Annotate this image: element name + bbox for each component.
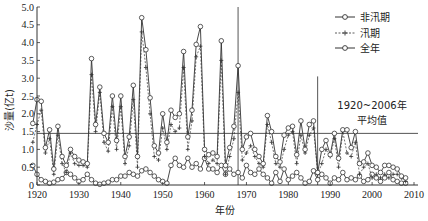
plus-marker-icon	[186, 147, 190, 151]
legend-item-flood: 汛期	[335, 28, 380, 39]
y-tick-label: 2.0	[22, 108, 35, 119]
y-tick-label: 1.5	[22, 126, 35, 137]
plus-marker-icon	[52, 172, 56, 176]
circle-marker-icon	[60, 176, 65, 181]
x-tick-label: 1990	[320, 189, 340, 200]
circle-marker-icon	[186, 135, 191, 140]
x-tick-label: 1930	[69, 189, 89, 200]
circle-marker-icon	[198, 167, 203, 172]
circle-marker-icon	[332, 131, 337, 136]
circle-marker-icon	[93, 122, 98, 127]
circle-marker-icon	[169, 108, 174, 113]
circle-marker-icon	[194, 161, 199, 166]
plus-marker-icon	[320, 162, 324, 166]
plus-marker-icon	[102, 140, 106, 144]
circle-marker-icon	[274, 154, 279, 159]
circle-marker-icon	[236, 170, 241, 175]
circle-marker-icon	[135, 174, 140, 179]
x-tick-label: 1970	[236, 189, 256, 200]
legend-label: 全年	[360, 42, 380, 54]
x-tick-label: 1920	[27, 189, 47, 200]
sediment-line-chart: 00.51.01.52.02.53.03.54.04.55.0 19201930…	[0, 0, 428, 221]
circle-marker-icon	[148, 170, 153, 175]
plus-marker-icon	[219, 58, 223, 62]
circle-marker-icon	[85, 172, 90, 177]
circle-marker-icon	[315, 170, 320, 175]
x-tick-labels: 1920193019401950196019701980199020002010	[27, 189, 424, 200]
plus-marker-icon	[295, 162, 299, 166]
circle-marker-icon	[177, 112, 182, 117]
y-tick-label: 1.0	[22, 144, 35, 155]
circle-marker-icon	[353, 129, 358, 134]
circle-marker-icon	[320, 147, 325, 152]
y-tick-label: 2.5	[22, 91, 35, 102]
circle-marker-icon	[265, 176, 270, 181]
circle-marker-icon	[211, 151, 216, 156]
circle-marker-icon	[311, 119, 316, 124]
x-tick-label: 2000	[362, 189, 382, 200]
circle-marker-icon	[324, 176, 329, 181]
circle-marker-icon	[219, 39, 224, 44]
plus-marker-icon	[324, 147, 328, 151]
circle-marker-icon	[60, 154, 65, 159]
circle-marker-icon	[85, 161, 90, 166]
y-tick-label: 4.0	[22, 37, 35, 48]
circle-marker-icon	[269, 129, 274, 134]
circle-marker-icon	[244, 163, 249, 168]
circle-marker-icon	[290, 174, 295, 179]
circle-marker-icon	[165, 140, 170, 145]
circle-marker-icon	[265, 113, 270, 118]
plus-marker-icon	[194, 55, 198, 59]
circle-marker-icon	[336, 156, 341, 161]
circle-marker-icon	[253, 172, 258, 177]
circle-marker-icon	[39, 99, 44, 104]
circle-marker-icon	[366, 151, 371, 156]
circle-marker-icon	[31, 121, 36, 126]
circle-marker-icon	[72, 176, 77, 181]
plus-marker-icon	[198, 44, 202, 48]
circle-marker-icon	[343, 46, 348, 51]
circle-marker-icon	[324, 138, 329, 143]
circle-marker-icon	[68, 172, 73, 177]
circle-marker-icon	[106, 140, 111, 145]
circle-marker-icon	[315, 177, 320, 182]
circle-marker-icon	[282, 167, 287, 172]
circle-marker-icon	[307, 179, 312, 184]
plus-marker-icon	[136, 165, 140, 169]
circle-marker-icon	[353, 177, 358, 182]
circle-marker-icon	[240, 147, 245, 152]
plus-marker-icon	[123, 162, 127, 166]
plus-marker-icon	[362, 165, 366, 169]
plus-marker-icon	[165, 147, 169, 151]
plus-marker-icon	[253, 155, 257, 159]
circle-marker-icon	[303, 147, 308, 152]
circle-marker-icon	[294, 170, 299, 175]
circle-marker-icon	[202, 147, 207, 152]
y-axis-title: 沙量(亿t)	[3, 89, 15, 131]
circle-marker-icon	[343, 15, 348, 20]
plus-marker-icon	[249, 144, 253, 148]
annotation-line-2: 平均值	[357, 114, 387, 126]
circle-marker-icon	[290, 124, 295, 129]
y-tick-label: 4.5	[22, 19, 35, 30]
x-tick-label: 1940	[111, 189, 131, 200]
circle-marker-icon	[181, 165, 186, 170]
circle-marker-icon	[299, 119, 304, 124]
circle-marker-icon	[198, 24, 203, 29]
circle-marker-icon	[403, 176, 408, 181]
circle-marker-icon	[81, 177, 86, 182]
plus-marker-icon	[312, 126, 316, 130]
circle-marker-icon	[152, 144, 157, 149]
circle-marker-icon	[253, 147, 258, 152]
legend-item-annual: 全年	[335, 42, 380, 54]
circle-marker-icon	[56, 124, 61, 129]
circle-marker-icon	[244, 135, 249, 140]
circle-marker-icon	[395, 167, 400, 172]
circle-marker-icon	[119, 94, 124, 99]
circle-marker-icon	[114, 177, 119, 182]
plus-marker-icon	[232, 137, 236, 141]
circle-marker-icon	[131, 83, 136, 88]
circle-marker-icon	[186, 156, 191, 161]
circle-marker-icon	[294, 152, 299, 157]
circle-marker-icon	[72, 154, 77, 159]
